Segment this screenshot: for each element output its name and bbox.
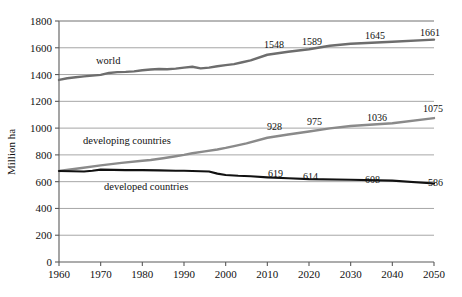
y-tick-label: 400: [36, 202, 53, 214]
x-tick-label: 2040: [381, 268, 404, 280]
series-label-world: world: [96, 55, 121, 66]
series-label-developed-countries: developed countries: [104, 181, 188, 192]
x-tick-label: 1990: [173, 268, 196, 280]
x-tick-label: 2030: [340, 268, 363, 280]
y-axis-tick-labels: 020040060080010001200140016001800: [30, 15, 53, 268]
y-tick-label: 200: [36, 229, 53, 241]
y-tick-label: 1800: [30, 15, 53, 27]
chart-container: 020040060080010001200140016001800 196019…: [0, 0, 462, 297]
x-tick-label: 1970: [90, 268, 113, 280]
data-point-label: 928: [267, 121, 282, 132]
data-point-label: 619: [268, 168, 283, 179]
data-point-label: 608: [365, 174, 380, 185]
data-point-label: 1075: [423, 103, 443, 114]
y-tick-label: 1400: [30, 69, 53, 81]
data-point-label: 1645: [365, 30, 385, 41]
y-tick-label: 0: [47, 256, 53, 268]
line-chart: 020040060080010001200140016001800 196019…: [0, 0, 462, 297]
x-tick-label: 2010: [256, 268, 279, 280]
data-point-label: 1589: [302, 36, 322, 47]
x-tick-label: 2050: [423, 268, 446, 280]
data-point-label: 975: [307, 116, 322, 127]
x-tick-label: 2000: [215, 268, 238, 280]
series-label-developing-countries: developing countries: [83, 135, 171, 146]
x-tick-label: 1980: [131, 268, 154, 280]
data-point-label: 586: [428, 177, 443, 188]
y-tick-label: 800: [36, 149, 53, 161]
y-tick-label: 1000: [30, 122, 53, 134]
x-axis-tick-labels: 1960197019801990200020102020203020402050: [48, 268, 446, 280]
data-point-label: 1548: [264, 39, 284, 50]
y-tick-label: 600: [36, 176, 53, 188]
y-axis-title: Million ha: [5, 129, 17, 175]
x-tick-label: 1960: [48, 268, 71, 280]
x-tick-label: 2020: [298, 268, 321, 280]
data-point-label: 1661: [420, 27, 440, 38]
data-point-label: 614: [303, 171, 318, 182]
data-point-label: 1036: [367, 112, 387, 123]
y-tick-label: 1200: [30, 95, 53, 107]
y-tick-label: 1600: [30, 42, 53, 54]
